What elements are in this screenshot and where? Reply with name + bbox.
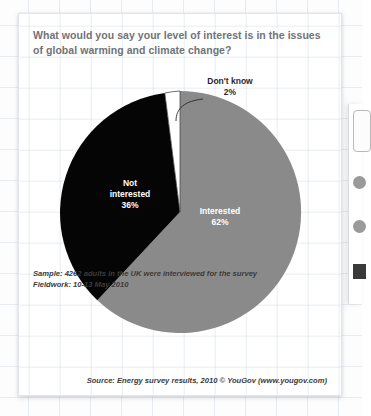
- source-attribution: Source: Energy survey results, 2010 © Yo…: [87, 376, 327, 385]
- footnote-block: Sample: 4262 adults in the UK were inter…: [33, 268, 313, 290]
- toolbar-circle-button-1[interactable]: [353, 176, 366, 189]
- side-toolbar: [348, 104, 362, 304]
- page-title: What would you say your level of interes…: [33, 28, 329, 58]
- pie-chart-svg: [55, 90, 305, 335]
- pie-label-dont-know: Don't know 2%: [187, 76, 273, 98]
- footnote-fieldwork-line: Fieldwork: 10-13 May 2010: [33, 279, 313, 290]
- toolbar-square-button[interactable]: [353, 264, 366, 279]
- pie-chart: Not interested 36% Interested 62%: [55, 90, 305, 335]
- dont-know-leader-line: [169, 94, 219, 122]
- footnote-sample-line: Sample: 4262 adults in the UK were inter…: [33, 268, 313, 279]
- infographic-card: What would you say your level of interes…: [18, 13, 342, 396]
- toolbar-circle-button-2[interactable]: [353, 220, 366, 233]
- toolbar-panel-button[interactable]: [353, 110, 371, 152]
